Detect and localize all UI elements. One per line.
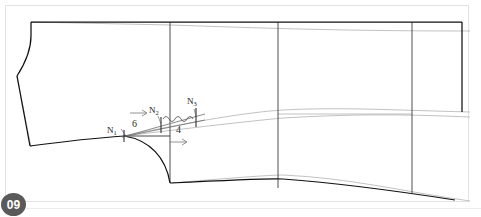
neckline-curve (17, 22, 31, 76)
pattern-diagram: N1 N2 N3 6 4 (0, 0, 481, 217)
vertical-guide-lines (170, 22, 412, 193)
notch-label-n1: N1 (107, 125, 117, 136)
hem-left-segment (30, 136, 124, 146)
dimension-value-4: 4 (176, 124, 181, 135)
wave-path (163, 117, 193, 122)
ease-wave-segment (163, 117, 193, 122)
left-side-seam (17, 76, 30, 146)
main-pattern-outline (17, 22, 462, 200)
notch-label-n3: N3 (187, 96, 197, 107)
dimension-arrow-6 (130, 110, 147, 116)
upper-construction-curve (31, 22, 470, 31)
notch-label-n2: N2 (149, 105, 159, 116)
lower-construction-curve (172, 175, 470, 201)
notch-label-n1-sub: 1 (114, 129, 117, 136)
dimension-value-6: 6 (132, 118, 137, 129)
armhole-scye-curve (124, 136, 170, 183)
notch-label-n2-sub: 2 (156, 109, 159, 116)
construction-lines (17, 22, 470, 201)
dimension-arrow-4 (170, 139, 187, 145)
badge-underline-rule (26, 208, 481, 209)
pattern-drawing-page: N1 N2 N3 6 4 09 (0, 0, 481, 217)
page-number-badge: 09 (1, 193, 26, 216)
page-number-text: 09 (7, 198, 20, 212)
notch-label-n3-sub: 3 (194, 100, 197, 107)
